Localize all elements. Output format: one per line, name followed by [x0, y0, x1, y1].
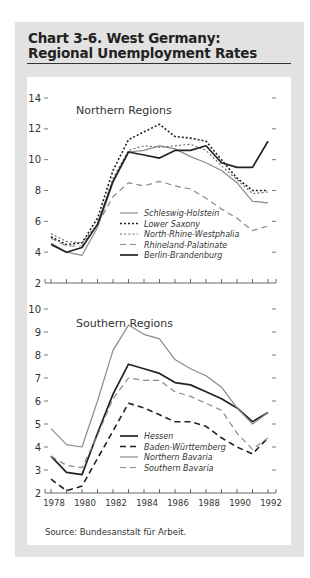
svg-text:1980: 1980 — [74, 498, 96, 508]
svg-text:1978: 1978 — [43, 498, 65, 508]
svg-text:4: 4 — [35, 442, 41, 453]
svg-text:10: 10 — [28, 304, 41, 315]
svg-text:Northern Bavaria: Northern Bavaria — [144, 453, 213, 462]
line-charts: 2468101214Northern RegionsSchleswig-Hols… — [0, 0, 310, 578]
svg-text:North-Rhine-Westphalia: North-Rhine-Westphalia — [144, 230, 239, 239]
svg-text:Lower Saxony: Lower Saxony — [144, 220, 200, 229]
svg-text:Rhineland-Palatinate: Rhineland-Palatinate — [144, 241, 227, 250]
svg-text:4: 4 — [35, 247, 41, 258]
svg-text:Hessen: Hessen — [144, 432, 173, 441]
svg-text:Baden-Württemberg: Baden-Württemberg — [144, 443, 226, 452]
svg-text:12: 12 — [28, 123, 41, 134]
svg-text:Northern Regions: Northern Regions — [76, 104, 172, 117]
svg-text:1986: 1986 — [167, 498, 189, 508]
svg-text:6: 6 — [35, 216, 41, 227]
svg-text:1990: 1990 — [229, 498, 251, 508]
svg-text:1992: 1992 — [260, 498, 282, 508]
source-note: Source: Bundesanstalt für Arbeit. — [45, 527, 186, 537]
svg-text:8: 8 — [35, 350, 41, 361]
svg-text:3: 3 — [35, 465, 41, 476]
svg-text:Southern Bavaria: Southern Bavaria — [144, 464, 214, 473]
svg-text:1982: 1982 — [105, 498, 127, 508]
svg-text:8: 8 — [35, 185, 41, 196]
svg-text:6: 6 — [35, 396, 41, 407]
svg-text:1984: 1984 — [136, 498, 158, 508]
svg-text:7: 7 — [35, 373, 41, 384]
svg-text:14: 14 — [28, 93, 41, 104]
svg-text:10: 10 — [28, 154, 41, 165]
svg-text:2: 2 — [35, 488, 41, 499]
svg-text:1988: 1988 — [198, 498, 220, 508]
svg-text:5: 5 — [35, 419, 41, 430]
svg-text:Berlin-Brandenburg: Berlin-Brandenburg — [144, 251, 222, 260]
svg-text:Schleswig-Holstein: Schleswig-Holstein — [144, 209, 219, 218]
svg-text:Southern Regions: Southern Regions — [76, 317, 173, 330]
svg-text:2: 2 — [35, 278, 41, 289]
svg-text:9: 9 — [35, 327, 41, 338]
